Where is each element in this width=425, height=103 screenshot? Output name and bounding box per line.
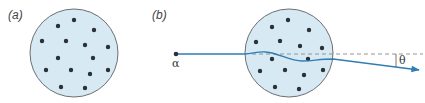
charge-dot	[56, 24, 60, 28]
charge-dot	[72, 18, 76, 22]
charge-dot	[278, 39, 282, 43]
theta-label: θ	[399, 54, 406, 67]
charge-dot	[270, 25, 274, 29]
charge-dot	[88, 72, 92, 76]
rutherford-scattering-diagram: (a) (b) α θ	[0, 0, 425, 103]
charge-dot	[56, 56, 60, 60]
charge-dot	[258, 69, 262, 73]
charge-dot	[286, 18, 290, 22]
panel-b-label: (b)	[152, 8, 167, 22]
charge-dot	[92, 28, 96, 32]
charge-dot	[298, 44, 302, 48]
charge-dot	[69, 68, 73, 72]
charge-dot	[91, 56, 95, 60]
charge-dot	[83, 86, 87, 90]
charge-dot	[270, 57, 274, 61]
atom-circle-a	[30, 9, 118, 97]
charge-dot	[44, 68, 48, 72]
charge-dot	[106, 68, 110, 72]
alpha-label: α	[172, 57, 180, 70]
charge-dot	[283, 68, 287, 72]
charge-dot	[320, 46, 324, 50]
panel-a: (a)	[8, 8, 118, 97]
charge-dot	[321, 68, 325, 72]
atom-circle-b	[245, 9, 333, 97]
charge-dot	[59, 85, 63, 89]
panel-a-label: (a)	[8, 8, 23, 22]
alpha-particle-dot	[174, 52, 179, 57]
charge-dot	[307, 28, 311, 32]
charge-dot	[302, 73, 306, 77]
charge-dot	[83, 43, 87, 47]
charge-dot	[64, 39, 68, 43]
charge-dot	[40, 39, 44, 43]
charge-dot	[297, 87, 301, 91]
charge-dot	[273, 85, 277, 89]
charge-dot	[106, 45, 110, 49]
charge-dot	[254, 40, 258, 44]
panel-b: (b) α θ	[152, 8, 423, 97]
